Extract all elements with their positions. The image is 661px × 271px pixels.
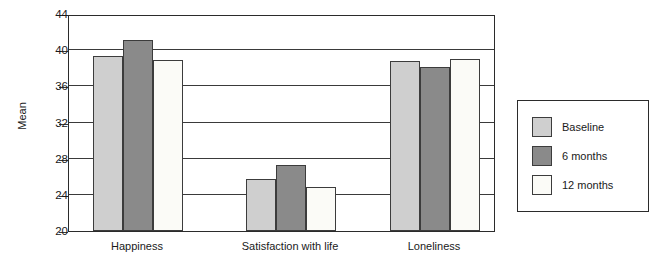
legend-item: 12 months bbox=[532, 170, 648, 199]
y-tick-label: 28 bbox=[24, 154, 68, 166]
legend: Baseline6 months12 months bbox=[517, 100, 649, 212]
y-tick-label: 36 bbox=[24, 82, 68, 94]
bar bbox=[450, 59, 480, 231]
legend-label: Baseline bbox=[562, 121, 604, 133]
bar-chart-figure: Mean 20242832364044 HappinessSatisfactio… bbox=[0, 0, 661, 271]
legend-item: Baseline bbox=[532, 112, 648, 141]
y-tick-label: 44 bbox=[24, 9, 68, 21]
y-tick-label: 24 bbox=[24, 190, 68, 202]
x-axis-label: Loneliness bbox=[408, 240, 461, 252]
legend-swatch bbox=[532, 175, 552, 195]
y-tick-label: 32 bbox=[24, 118, 68, 130]
legend-swatch bbox=[532, 146, 552, 166]
legend-label: 12 months bbox=[562, 179, 613, 191]
bar bbox=[420, 67, 450, 231]
bar bbox=[153, 60, 183, 231]
bar bbox=[276, 165, 306, 231]
bar bbox=[123, 40, 153, 231]
bar bbox=[306, 187, 336, 231]
legend-item: 6 months bbox=[532, 141, 648, 170]
x-axis-label: Satisfaction with life bbox=[242, 240, 339, 252]
bar bbox=[390, 61, 420, 231]
x-axis-label: Happiness bbox=[111, 240, 163, 252]
y-tick-label: 40 bbox=[24, 45, 68, 57]
x-axis-labels: HappinessSatisfaction with lifeLonelines… bbox=[68, 236, 495, 260]
bar bbox=[246, 179, 276, 231]
plot-area bbox=[68, 15, 495, 232]
bar bbox=[93, 56, 123, 231]
legend-swatch bbox=[532, 117, 552, 137]
legend-rows: Baseline6 months12 months bbox=[532, 112, 648, 199]
y-axis-ticks: 20242832364044 bbox=[0, 0, 68, 271]
legend-label: 6 months bbox=[562, 150, 607, 162]
y-tick-label: 20 bbox=[24, 226, 68, 238]
bars-layer bbox=[69, 16, 494, 231]
